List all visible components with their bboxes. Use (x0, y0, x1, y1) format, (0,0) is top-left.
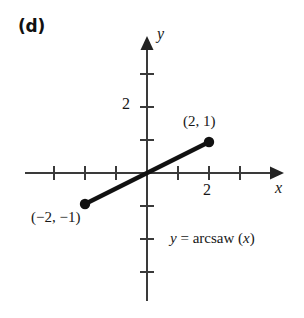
y-axis-label: y (157, 26, 164, 42)
panel-label: (d) (18, 18, 45, 35)
point-label-2-1: (2, 1) (183, 114, 216, 129)
point-label-neg2-neg1: (−2, −1) (31, 210, 80, 225)
endpoint-dot-right (204, 137, 214, 147)
x-axis-label: x (275, 180, 282, 196)
coordinate-plot (0, 0, 304, 318)
x-axis-arrowhead (270, 167, 284, 180)
x-axis-tick-label-2: 2 (203, 182, 211, 198)
graph-figure: (d) y x 2 2 (2, 1) (−2, −1) y = arcsaw (… (0, 0, 304, 318)
endpoint-dot-left (80, 199, 90, 209)
equation-close-paren: ) (250, 230, 255, 246)
equation-label: y = arcsaw (x) (170, 231, 255, 246)
equation-function-name: arcsaw ( (193, 230, 243, 246)
y-axis-tick-label-2: 2 (122, 96, 130, 112)
equation-equals: = (177, 230, 193, 246)
equation-argument: x (243, 230, 250, 246)
y-axis-arrowhead (141, 36, 154, 50)
equation-lhs: y (170, 230, 177, 246)
